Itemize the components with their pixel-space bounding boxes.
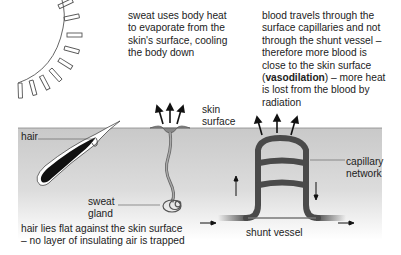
caption-line: is lost from the blood by xyxy=(262,84,385,96)
skin-surface-label: skin surface xyxy=(202,104,235,129)
hair-label: hair xyxy=(21,131,38,143)
caption-line: blood travels through the xyxy=(262,10,385,22)
vasodilation-term: vasodilation xyxy=(265,72,324,83)
caption-line: skin's surface, cooling xyxy=(128,35,227,47)
caption-line: sweat uses body heat xyxy=(128,10,227,22)
sweat-caption: sweat uses body heat to evaporate from t… xyxy=(128,10,227,60)
label-line: skin xyxy=(202,104,235,116)
skin-thermoregulation-diagram: sweat uses body heat to evaporate from t… xyxy=(0,0,401,255)
caption-line: hair lies flat against the skin surface xyxy=(21,223,185,235)
caption-line: therefore more blood is xyxy=(262,47,385,59)
caption-line: the body down xyxy=(128,47,227,59)
shunt-vessel-left xyxy=(218,215,248,221)
capillary-network-label: capillary network xyxy=(346,156,383,181)
caption-line: – no layer of insulating air is trapped xyxy=(21,235,185,247)
label-line: gland xyxy=(88,208,115,220)
sun-icon xyxy=(18,0,82,98)
sweat-evaporation-arrows xyxy=(156,104,184,124)
vasodilation-caption: blood travels through the surface capill… xyxy=(262,10,385,109)
shunt-vessel-right xyxy=(316,215,346,221)
hair-caption: hair lies flat against the skin surface … xyxy=(21,223,185,248)
caption-line: through the shunt vessel – xyxy=(262,35,385,47)
label-line: sweat xyxy=(88,196,115,208)
label-line: surface xyxy=(202,116,235,128)
caption-line: to evaporate from the xyxy=(128,22,227,34)
label-line: network xyxy=(346,168,383,180)
shunt-vessel-label: shunt vessel xyxy=(246,227,303,239)
caption-line: radiation xyxy=(262,97,385,109)
caption-line: surface capillaries and not xyxy=(262,22,385,34)
caption-line: close to the skin surface xyxy=(262,60,385,72)
heat-radiation-arrows xyxy=(255,115,298,135)
sweat-gland-label: sweat gland xyxy=(88,196,115,221)
caption-text: ) – more heat xyxy=(325,72,386,83)
caption-line: (vasodilation) – more heat xyxy=(262,72,385,84)
label-line: capillary xyxy=(346,156,383,168)
